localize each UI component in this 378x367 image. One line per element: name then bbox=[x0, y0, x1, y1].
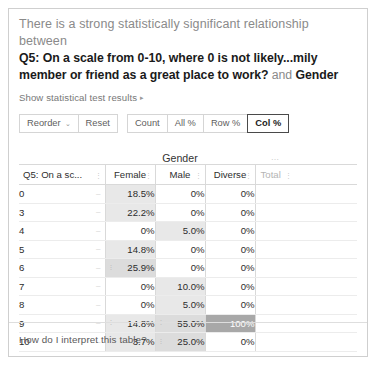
column-header-female-label: Female bbox=[114, 169, 146, 180]
table-row[interactable]: 0–18.5%0%0% bbox=[19, 185, 357, 204]
table-toolbar: Reorder ⌄ Reset Count All % Row % Col % bbox=[19, 114, 367, 133]
interpret-table-link[interactable]: How do I interpret this table? bbox=[19, 334, 147, 345]
stat-link-label: Show statistical test results bbox=[19, 92, 137, 103]
row-label-cell[interactable]: 6– bbox=[19, 259, 105, 278]
cell-value: 0% bbox=[191, 262, 205, 273]
count-button[interactable]: Count bbox=[127, 114, 168, 133]
drag-handle-icon[interactable]: ⋮ bbox=[108, 265, 114, 270]
chevron-down-icon: ⌄ bbox=[65, 116, 71, 131]
group-header-spacer bbox=[19, 144, 105, 165]
row-label-cell[interactable]: 3– bbox=[19, 203, 105, 222]
row-label-cell[interactable]: 8– bbox=[19, 296, 105, 315]
row-pad-cell bbox=[295, 296, 357, 315]
table-row[interactable]: 4–0%5.0%0% bbox=[19, 222, 357, 241]
reorder-label: Reorder bbox=[27, 116, 61, 131]
sort-icon[interactable]: ⋮ bbox=[245, 171, 252, 178]
total-cell-empty bbox=[255, 296, 295, 315]
row-handle-icon[interactable]: – bbox=[96, 264, 100, 272]
table-row[interactable]: 5–14.8%0%0% bbox=[19, 240, 357, 259]
data-cell[interactable]: 0% bbox=[205, 259, 255, 278]
table-row[interactable]: 6–⋮25.9%0%0% bbox=[19, 259, 357, 278]
data-cell[interactable]: 0% bbox=[105, 222, 155, 241]
row-handle-icon[interactable]: – bbox=[96, 282, 100, 290]
data-cell[interactable]: 22.2% bbox=[105, 203, 155, 222]
table-row[interactable]: 8–0%5.0%0% bbox=[19, 296, 357, 315]
row-label: 0 bbox=[19, 188, 24, 199]
row-pad-cell bbox=[295, 277, 357, 296]
total-cell-empty bbox=[255, 240, 295, 259]
row-label: 6 bbox=[19, 262, 24, 273]
data-cell[interactable]: 0% bbox=[205, 240, 255, 259]
total-cell-empty bbox=[255, 222, 295, 241]
show-statistical-test-results-link[interactable]: Show statistical test results▸ bbox=[19, 92, 144, 103]
total-cell-empty bbox=[255, 203, 295, 222]
cell-value: 0% bbox=[241, 299, 255, 310]
cell-value: 0% bbox=[241, 262, 255, 273]
cell-value: 25.9% bbox=[127, 262, 154, 273]
cell-value: 0% bbox=[141, 299, 155, 310]
total-cell-empty bbox=[255, 277, 295, 296]
data-cell[interactable]: 0% bbox=[155, 240, 205, 259]
total-cell-empty bbox=[255, 185, 295, 204]
data-cell[interactable]: 0% bbox=[105, 296, 155, 315]
row-handle-icon[interactable]: – bbox=[96, 208, 100, 216]
row-handle-icon[interactable]: – bbox=[96, 245, 100, 253]
cell-value: 0% bbox=[241, 244, 255, 255]
row-handle-icon[interactable]: – bbox=[96, 301, 100, 309]
reorder-button[interactable]: Reorder ⌄ bbox=[19, 114, 79, 133]
sort-icon[interactable]: ⋮ bbox=[145, 171, 152, 178]
data-cell[interactable]: 0% bbox=[155, 203, 205, 222]
headline-conjunction: and bbox=[268, 68, 295, 82]
data-cell[interactable]: 0% bbox=[205, 203, 255, 222]
group-header-row: Gender ⋯ bbox=[19, 144, 357, 165]
row-label: 5 bbox=[19, 244, 24, 255]
data-cell[interactable]: 18.5% bbox=[105, 185, 155, 204]
card-footer: How do I interpret this table? bbox=[9, 322, 367, 356]
data-cell[interactable]: 10.0% bbox=[155, 277, 205, 296]
total-cell-empty bbox=[255, 259, 295, 278]
cell-value: 0% bbox=[241, 207, 255, 218]
cell-value: 18.5% bbox=[127, 188, 154, 199]
cell-value: 14.8% bbox=[127, 244, 154, 255]
data-cell[interactable]: 0% bbox=[205, 277, 255, 296]
column-header-total[interactable]: Total ⋮ bbox=[255, 165, 295, 185]
cell-value: 0% bbox=[191, 188, 205, 199]
all-percent-button[interactable]: All % bbox=[167, 114, 204, 133]
headline-lead: There is a strong statistically signific… bbox=[19, 16, 357, 50]
row-handle-icon[interactable]: – bbox=[96, 227, 100, 235]
cell-value: 5.0% bbox=[183, 225, 205, 236]
data-cell[interactable]: 14.8% bbox=[105, 240, 155, 259]
data-cell[interactable]: 0% bbox=[155, 185, 205, 204]
table-row[interactable]: 7–0%10.0%0% bbox=[19, 277, 357, 296]
data-cell[interactable]: 0% bbox=[205, 296, 255, 315]
column-header-female[interactable]: Female ⋮ bbox=[105, 165, 155, 185]
row-label-cell[interactable]: 5– bbox=[19, 240, 105, 259]
row-percent-button[interactable]: Row % bbox=[203, 114, 248, 133]
row-pad-cell bbox=[295, 222, 357, 241]
sort-icon[interactable]: ⋮ bbox=[285, 171, 292, 178]
row-handle-icon[interactable]: – bbox=[96, 190, 100, 198]
column-header-diverse[interactable]: Diverse ⋮ bbox=[205, 165, 255, 185]
sort-icon[interactable]: ⋮ bbox=[95, 171, 102, 178]
column-header-question[interactable]: Q5: On a sc... ⋮ bbox=[19, 165, 105, 185]
row-label-cell[interactable]: 0– bbox=[19, 185, 105, 204]
data-cell[interactable]: 0% bbox=[205, 185, 255, 204]
data-cell[interactable]: ⋮25.9% bbox=[105, 259, 155, 278]
reset-button[interactable]: Reset bbox=[78, 114, 118, 133]
column-header-male[interactable]: Male ⋮ bbox=[155, 165, 205, 185]
row-label: 3 bbox=[19, 207, 24, 218]
row-pad-cell bbox=[295, 203, 357, 222]
data-cell[interactable]: 0% bbox=[105, 277, 155, 296]
cell-value: 0% bbox=[241, 188, 255, 199]
column-header-total-label: Total bbox=[261, 169, 281, 180]
col-percent-button[interactable]: Col % bbox=[247, 114, 289, 133]
cell-value: 0% bbox=[241, 225, 255, 236]
data-cell[interactable]: 0% bbox=[155, 259, 205, 278]
data-cell[interactable]: 5.0% bbox=[155, 296, 205, 315]
data-cell[interactable]: 5.0% bbox=[155, 222, 205, 241]
table-row[interactable]: 3–22.2%0%0% bbox=[19, 203, 357, 222]
sort-icon[interactable]: ⋮ bbox=[195, 171, 202, 178]
data-cell[interactable]: 0% bbox=[205, 222, 255, 241]
row-label-cell[interactable]: 7– bbox=[19, 277, 105, 296]
row-label-cell[interactable]: 4– bbox=[19, 222, 105, 241]
